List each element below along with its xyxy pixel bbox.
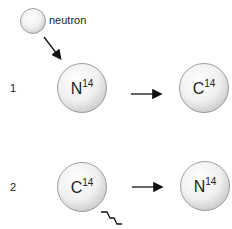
neutron-label: neutron — [49, 14, 86, 26]
element-symbol: C — [71, 179, 83, 196]
row1-to-nucleus: C14 — [179, 81, 229, 97]
element-symbol: N — [71, 80, 83, 97]
mass-number: 14 — [204, 78, 215, 89]
mass-number: 14 — [82, 78, 93, 89]
element-symbol: N — [194, 178, 206, 195]
mass-number: 14 — [82, 177, 93, 188]
beta-emission-zigzag-icon — [101, 212, 122, 224]
row1-number: 1 — [10, 82, 16, 94]
row2-number: 2 — [10, 181, 16, 193]
element-symbol: C — [193, 80, 205, 97]
row1-from-nucleus: N14 — [57, 81, 107, 97]
neutron-arrow — [44, 37, 60, 58]
row2-to-nucleus: N14 — [180, 179, 230, 195]
mass-number: 14 — [205, 176, 216, 187]
row2-from-nucleus: C14 — [57, 180, 107, 196]
neutron-sphere — [21, 9, 46, 34]
